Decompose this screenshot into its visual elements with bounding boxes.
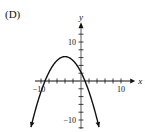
y-tick-label-10: 10 [68,38,76,47]
parabola-chart: yx10−10−1010 [0,0,145,132]
y-tick-label-neg10: −10 [63,116,76,125]
x-tick-label-neg10: −10 [33,85,46,94]
x-axis-label: x [137,76,142,86]
y-axis-arrow-icon [79,22,84,28]
x-tick-label-10: 10 [117,85,125,94]
axes [35,22,135,129]
y-axis-label: y [78,12,83,22]
axis-labels: yx10−10−1010 [33,12,142,125]
x-axis-arrow-icon [130,79,135,84]
